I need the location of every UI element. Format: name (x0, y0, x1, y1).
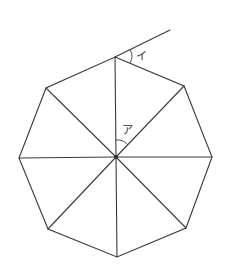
angle-a-arc (116, 140, 128, 145)
angle-i-arc (130, 50, 132, 63)
angle-i-label: イ (136, 50, 147, 63)
center-point (114, 155, 118, 159)
angle-a-label: ア (122, 124, 133, 137)
octagon-diagram: イ ア (0, 0, 227, 276)
